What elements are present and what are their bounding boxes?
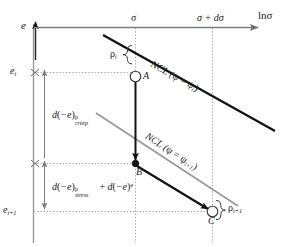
x-axis-label: lnσ	[258, 10, 273, 21]
point-a-label: A	[143, 71, 149, 81]
measure-stress-sub: stress	[75, 192, 88, 198]
guide-lines	[34, 28, 216, 243]
y-tick-ei: ei	[10, 66, 16, 77]
diagram-svg	[0, 0, 289, 247]
y-tick-ei1-sub: i+1	[7, 209, 16, 216]
rho-i-plus-1-sub: i+1	[233, 207, 242, 214]
x-tick-sigma-dsigma: σ + dσ	[197, 13, 224, 23]
point-a-marker	[130, 71, 141, 82]
rho-i-label: ρi	[110, 49, 117, 60]
measure-stress-minus-e2: −e	[116, 181, 127, 192]
measure-creep-label: d(−e)pcreep	[52, 110, 75, 120]
y-tick-ei1: ei+1	[3, 205, 16, 216]
point-b-label: B	[136, 167, 142, 177]
x-tick-sigma-dsigma-text: σ + dσ	[197, 12, 224, 23]
measure-creep-sub: creep	[75, 120, 88, 126]
measure-stress-plus: +	[97, 181, 108, 192]
measure-stress-label: d(−e)pstress + d(−e)e	[52, 182, 133, 192]
rho-i-plus-1-label: ρi+1	[228, 203, 242, 214]
arrow-b-to-c	[137, 166, 208, 209]
y-axis-label: e	[21, 20, 26, 31]
point-c-label: C	[208, 216, 215, 226]
ncl-lower-line	[96, 113, 238, 206]
figure-canvas: e lnσ σ σ + dσ ei ei+1 NCL (ψ = ψi) NCL …	[0, 0, 289, 247]
rho-i-sub: i	[115, 53, 117, 60]
x-tick-sigma: σ	[131, 13, 136, 23]
measure-stress-minus-e: −e	[60, 181, 71, 192]
measure-stress-sup2: e	[130, 181, 133, 188]
y-tick-ei-sub: i	[14, 70, 16, 77]
x-axis-label-text: lnσ	[258, 9, 273, 21]
measure-creep-minus-e: −e	[60, 109, 71, 120]
